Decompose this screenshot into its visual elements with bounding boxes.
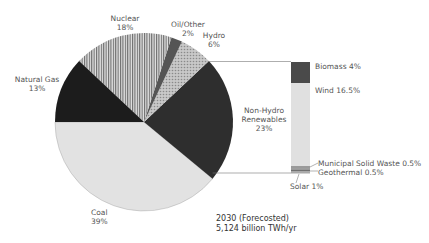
- bar-msw: [291, 166, 310, 169]
- label-biomass: Biomass 4%: [315, 62, 361, 71]
- label-oil-name: Oil/Other: [168, 20, 208, 29]
- label-solar: Solar 1%: [290, 182, 323, 191]
- label-msw: Municipal Solid Waste 0.5%: [318, 159, 421, 168]
- label-nuclear-name: Nuclear: [100, 14, 150, 23]
- label-non-hydro-renewables: Non-Hydro Renewables 23%: [238, 106, 290, 133]
- label-hydro: Hydro 6%: [198, 31, 230, 49]
- label-coal-pct: 39%: [91, 217, 108, 226]
- label-natural-gas: Natural Gas 13%: [12, 75, 62, 93]
- forecast-note: 2030 (Forecosted) 5,124 billion TWh/yr: [216, 214, 297, 234]
- forecast-total: 5,124 billion TWh/yr: [216, 224, 297, 234]
- label-coal: Coal 39%: [91, 208, 108, 226]
- label-renew-name1: Non-Hydro: [238, 106, 290, 115]
- label-gas-pct: 13%: [12, 84, 62, 93]
- label-hydro-name: Hydro: [198, 31, 230, 40]
- bar-biomass: [291, 62, 310, 83]
- label-coal-name: Coal: [91, 208, 108, 217]
- label-nuclear: Nuclear 18%: [100, 14, 150, 32]
- label-gas-name: Natural Gas: [12, 75, 62, 84]
- bar-geothermal: [291, 169, 310, 172]
- bar-wind: [291, 83, 310, 166]
- forecast-year: 2030 (Forecosted): [216, 214, 297, 224]
- label-wind: Wind 16.5%: [315, 86, 360, 95]
- label-hydro-pct: 6%: [198, 40, 230, 49]
- label-renew-pct: 23%: [238, 124, 290, 133]
- label-nuclear-pct: 18%: [100, 23, 150, 32]
- label-geothermal: Geothermal 0.5%: [318, 168, 384, 177]
- bar-solar: [291, 171, 310, 174]
- label-renew-name2: Renewables: [238, 115, 290, 124]
